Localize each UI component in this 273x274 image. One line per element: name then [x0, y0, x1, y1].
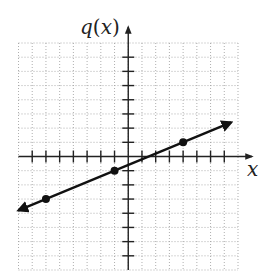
series-group	[19, 122, 232, 210]
y-axis-label: q(x)	[80, 15, 120, 39]
data-point	[111, 167, 119, 175]
function-line	[19, 122, 232, 210]
data-point	[179, 138, 187, 146]
axes	[19, 27, 253, 270]
function-graph: x q(x)	[0, 0, 273, 274]
data-point	[42, 195, 50, 203]
x-axis-label: x	[247, 157, 258, 181]
